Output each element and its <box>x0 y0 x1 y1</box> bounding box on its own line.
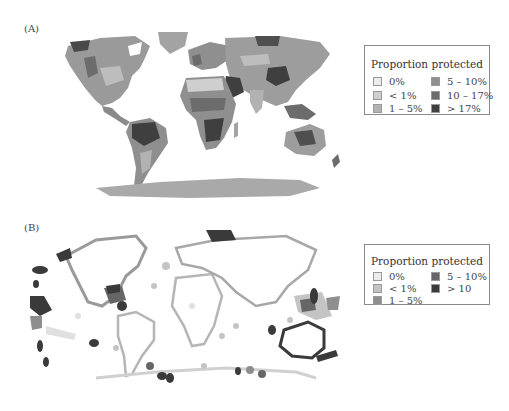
legend-item-0pct: 0% <box>373 76 405 87</box>
legend-title: Proportion protected <box>365 58 489 70</box>
legend-item-lt1pct: < 1% <box>373 283 416 294</box>
legend-panel-a: Proportion protected 0% < 1% 1 – 5% 5 – … <box>364 45 490 115</box>
legend-item-5-10pct: 5 – 10% <box>431 271 487 282</box>
legend-swatch <box>431 272 440 281</box>
legend-swatch <box>373 91 382 100</box>
marine-protection-map <box>26 226 351 388</box>
legend-panel-b: Proportion protected 0% < 1% 1 – 5% 5 – … <box>364 244 490 305</box>
legend-swatch <box>373 296 382 305</box>
legend-swatch <box>431 284 440 293</box>
legend-item-gt17pct: > 17% <box>431 103 481 114</box>
panel-a-label: (A) <box>24 23 39 34</box>
legend-item-label: > 10 <box>447 283 471 294</box>
legend-item-label: 5 – 10% <box>447 76 487 87</box>
terrestrial-protection-map <box>40 28 350 200</box>
legend-item-label: 10 – 17% <box>447 90 493 101</box>
legend-item-label: 0% <box>389 271 405 282</box>
legend-item-1-5pct: 1 – 5% <box>373 295 423 306</box>
legend-swatch <box>431 104 440 113</box>
legend-swatch <box>373 272 382 281</box>
legend-item-lt1pct: < 1% <box>373 90 416 101</box>
legend-swatch <box>431 77 440 86</box>
legend-swatch <box>373 284 382 293</box>
legend-item-5-10pct: 5 – 10% <box>431 76 487 87</box>
legend-swatch <box>373 77 382 86</box>
legend-swatch <box>373 104 382 113</box>
legend-swatch <box>431 91 440 100</box>
legend-item-label: < 1% <box>389 90 416 101</box>
legend-item-gt10pct: > 10 <box>431 283 471 294</box>
legend-item-label: 0% <box>389 76 405 87</box>
legend-item-label: < 1% <box>389 283 416 294</box>
legend-item-0pct: 0% <box>373 271 405 282</box>
legend-item-1-5pct: 1 – 5% <box>373 103 423 114</box>
legend-item-10-17pct: 10 – 17% <box>431 90 493 101</box>
legend-item-label: > 17% <box>447 103 481 114</box>
legend-item-label: 5 – 10% <box>447 271 487 282</box>
legend-item-label: 1 – 5% <box>389 295 423 306</box>
legend-item-label: 1 – 5% <box>389 103 423 114</box>
legend-title: Proportion protected <box>365 255 489 267</box>
